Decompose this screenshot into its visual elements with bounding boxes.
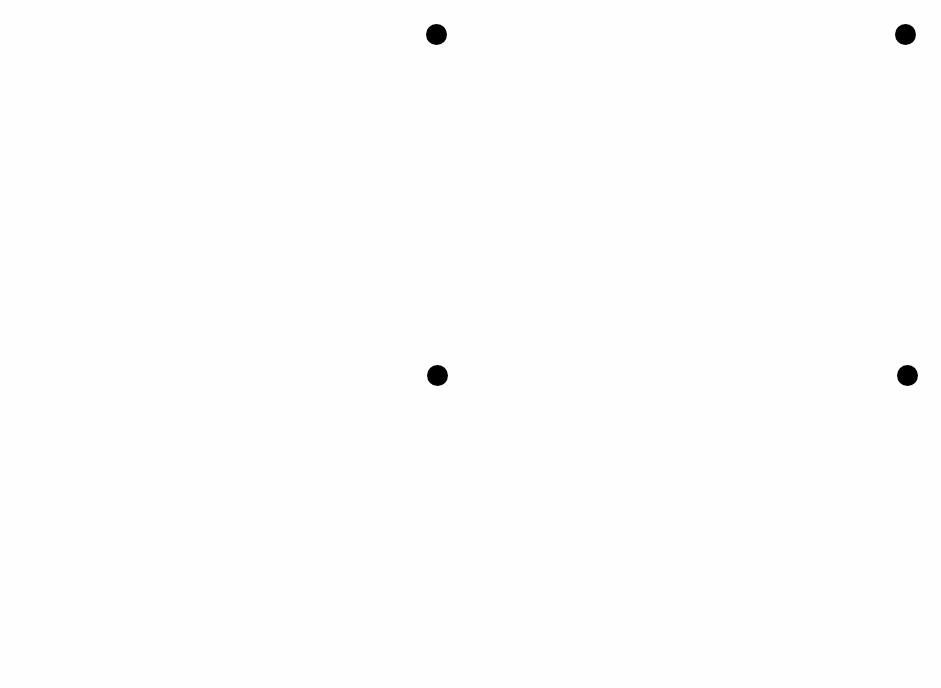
registration-dot-icon xyxy=(897,365,918,386)
registration-dot-icon xyxy=(427,365,448,386)
registration-dot-icon xyxy=(426,24,447,45)
blank-scanned-page xyxy=(0,0,941,688)
registration-dot-icon xyxy=(895,24,916,45)
